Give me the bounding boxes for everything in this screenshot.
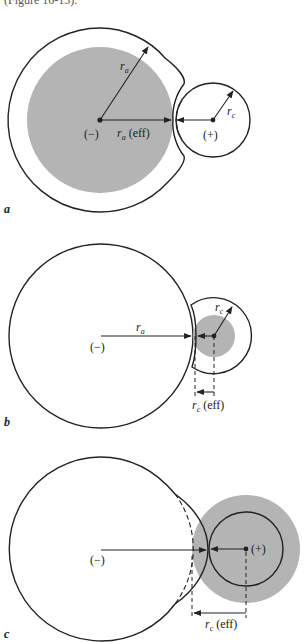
rc-eff-label: rc(eff)	[205, 617, 237, 633]
anion-original-dashed	[175, 494, 193, 604]
panel-c: (−) (+) rc(eff) c	[4, 457, 300, 641]
anion-sign: (−)	[90, 340, 105, 354]
panel-a: ra (−) ra(eff) (+) rc a	[4, 28, 250, 216]
ion-polarization-diagram: ra (−) ra(eff) (+) rc a ra (−) rc rc(eff…	[0, 0, 305, 642]
rc-label: rc	[227, 104, 236, 120]
panel-label-a: a	[4, 202, 10, 216]
rc-eff-label: rc(eff)	[192, 398, 224, 414]
panel-b: ra (−) rc rc(eff) b	[4, 244, 251, 429]
rc-label: rc	[215, 300, 224, 316]
ra-label: ra	[136, 320, 145, 336]
anion-sign: (−)	[84, 127, 99, 141]
cation-sign: (+)	[203, 128, 218, 142]
panel-label-b: b	[4, 415, 10, 429]
panel-label-c: c	[4, 627, 10, 641]
anion-distorted-boundary	[9, 457, 208, 641]
anion-sign: (−)	[90, 553, 105, 567]
cation-sign: (+)	[251, 542, 266, 556]
